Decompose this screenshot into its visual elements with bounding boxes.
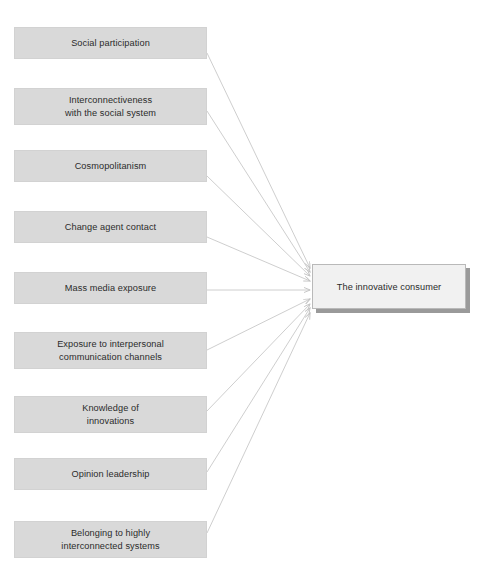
diagram-canvas: The innovative consumer Social participa…	[0, 0, 483, 579]
outcome-box-label: The innovative consumer	[337, 282, 442, 292]
antecedent-box-label: Opinion leadership	[65, 468, 155, 481]
antecedent-box-mass-media-exposure[interactable]: Mass media exposure	[14, 272, 207, 304]
antecedent-box-label: Mass media exposure	[59, 282, 162, 295]
arrow-exposure-to-interpersonal-communication-channels-to-outcome	[207, 299, 310, 350]
antecedent-box-label: Interconnectiveness with the social syst…	[59, 94, 162, 119]
antecedent-box-label: Knowledge of innovations	[76, 402, 145, 427]
antecedent-box-label: Belonging to highly interconnected syste…	[55, 527, 165, 552]
antecedent-box-knowledge-of-innovations[interactable]: Knowledge of innovations	[14, 396, 207, 433]
antecedent-box-label: Exposure to interpersonal communication …	[51, 338, 170, 363]
antecedent-box-label: Social participation	[65, 37, 156, 50]
arrow-group	[207, 53, 310, 533]
arrow-belonging-to-highly-interconnected-systems-to-outcome	[207, 313, 310, 533]
antecedent-box-opinion-leadership[interactable]: Opinion leadership	[14, 458, 207, 490]
antecedent-box-change-agent-contact[interactable]: Change agent contact	[14, 211, 207, 243]
antecedent-box-interconnectiveness-with-the-social-system[interactable]: Interconnectiveness with the social syst…	[14, 88, 207, 125]
antecedent-box-belonging-to-highly-interconnected-systems[interactable]: Belonging to highly interconnected syste…	[14, 521, 207, 558]
antecedent-box-label: Cosmopolitanism	[69, 160, 153, 173]
antecedent-box-social-participation[interactable]: Social participation	[14, 27, 207, 59]
outcome-box-innovative-consumer[interactable]: The innovative consumer	[312, 264, 466, 309]
arrow-change-agent-contact-to-outcome	[207, 237, 310, 281]
antecedent-box-label: Change agent contact	[59, 221, 163, 234]
arrow-opinion-leadership-to-outcome	[207, 308, 310, 472]
arrow-social-participation-to-outcome	[207, 53, 310, 268]
antecedent-box-exposure-to-interpersonal-communication-channels[interactable]: Exposure to interpersonal communication …	[14, 332, 207, 369]
arrow-knowledge-of-innovations-to-outcome	[207, 304, 310, 411]
antecedent-box-cosmopolitanism[interactable]: Cosmopolitanism	[14, 150, 207, 182]
